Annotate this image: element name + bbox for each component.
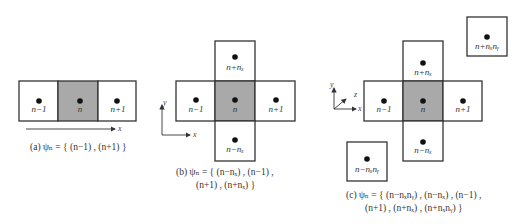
node-dot: [420, 139, 426, 145]
label-n-minus-nx: n−nₓ: [226, 144, 244, 154]
label-n: n: [233, 104, 238, 114]
node-dot: [460, 98, 466, 104]
label-n-minus-1: n−1: [31, 104, 46, 114]
panel-c: n+nₓnᵧ n+nₓ n−1 n n+1 n−nₓ n−nₓnᵧ y z x …: [329, 17, 507, 214]
label-n-plus-nx: n+nₓ: [226, 62, 244, 72]
caption-b-line2: (n+1) , (n+nₓ) }: [196, 180, 255, 191]
node-dot: [381, 98, 387, 104]
label-n-plus-nxny: n+nₓnᵧ: [475, 41, 499, 51]
label-n: n: [78, 104, 83, 114]
caption-c-line2: (n+1) , (n+nₓ) , (n+nₓnᵧ) }: [365, 203, 463, 214]
node-dot: [420, 98, 426, 104]
node-dot: [114, 98, 120, 104]
node-dot: [232, 137, 238, 143]
y-axis-label: y: [162, 98, 167, 107]
stencil-diagram: n−1 n n+1 x (a) ψₙ = { (n−1) , (n+1) } n…: [0, 0, 525, 224]
label-n-minus-1: n−1: [376, 104, 391, 114]
node-dot: [273, 97, 279, 103]
cell-top: [215, 41, 255, 81]
node-dot: [364, 156, 370, 162]
node-dot: [420, 60, 426, 66]
label-n: n: [421, 104, 426, 114]
label-n-plus-1: n+1: [110, 104, 125, 114]
y-axis-label: y: [329, 80, 334, 89]
label-n-plus-nx: n+nₓ: [414, 67, 432, 77]
node-dot: [232, 54, 238, 60]
caption-c-line1: (c) ψₙ = { (n−nₓnᵧ) , (n−nₓ) , (n−1) ,: [346, 190, 481, 201]
z-axis-arrow: [334, 99, 346, 109]
node-dot: [232, 97, 238, 103]
caption-a: (a) ψₙ = { (n−1) , (n+1) }: [30, 142, 126, 153]
caption-b-line1: (b) ψₙ = { (n−nₓ) , (n−1) ,: [176, 167, 274, 178]
label-n-plus-1: n+1: [268, 104, 283, 114]
node-dot: [77, 98, 83, 104]
x-axis-label: x: [117, 124, 122, 133]
label-n-minus-nx: n−nₓ: [414, 145, 432, 155]
z-axis-label: z: [353, 90, 358, 99]
label-n-plus-1: n+1: [455, 104, 470, 114]
label-n-minus-nxny: n−nₓnᵧ: [355, 164, 379, 174]
node-dot: [484, 34, 490, 40]
x-axis-label: x: [192, 130, 197, 139]
x-axis-label: x: [357, 104, 362, 113]
panel-b: n+nₓ n−1 n n+1 n−nₓ y x (b) ψₙ = { (n−nₓ…: [162, 41, 295, 191]
node-dot: [36, 98, 42, 104]
node-dot: [193, 97, 199, 103]
panel-a: n−1 n n+1 x (a) ψₙ = { (n−1) , (n+1) }: [19, 81, 136, 153]
label-n-minus-1: n−1: [188, 104, 203, 114]
